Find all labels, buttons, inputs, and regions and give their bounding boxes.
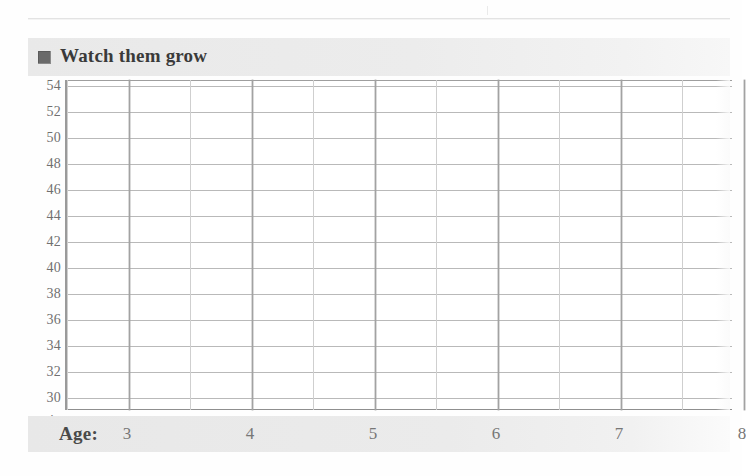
grid-line-vertical-major <box>498 80 499 410</box>
grid-line-vertical-major <box>129 80 130 410</box>
grid-line-vertical-minor <box>313 80 314 410</box>
grid-line-horizontal <box>67 409 732 410</box>
y-tick-label: 40 <box>46 260 61 276</box>
x-tick-label: 5 <box>369 424 378 444</box>
grid-line-horizontal <box>67 242 732 243</box>
grid-line-horizontal <box>67 138 732 139</box>
x-axis-title: Age: <box>59 423 98 445</box>
grid-line-horizontal <box>67 164 732 165</box>
x-tick-label: 7 <box>615 424 624 444</box>
grid-line-vertical-minor <box>190 80 191 410</box>
y-tick-label: 36 <box>46 312 61 328</box>
plot-area: 54 52 50 48 46 44 42 40 38 36 34 32 30 i… <box>28 76 730 416</box>
grid-line-horizontal <box>67 346 732 347</box>
square-bullet-icon <box>38 51 51 64</box>
grid-line-horizontal <box>67 86 732 87</box>
grid-line-horizontal <box>67 398 732 399</box>
grid-line-vertical-major <box>252 80 253 410</box>
x-tick-label: 3 <box>123 424 132 444</box>
y-tick-label: 32 <box>46 364 61 380</box>
grid-line-horizontal <box>67 112 732 113</box>
grid-line-horizontal <box>67 190 732 191</box>
y-tick-label: 30 <box>46 390 61 406</box>
grid-line-horizontal <box>67 294 732 295</box>
y-tick-label: 44 <box>46 208 61 224</box>
card-title: Watch them grow <box>60 45 207 67</box>
grid-line-vertical-major <box>744 80 745 410</box>
grid-line-vertical-major <box>375 80 376 410</box>
top-rule-tick-mark <box>487 6 488 15</box>
x-tick-label: 8 <box>738 424 746 444</box>
x-axis-band: Age: 3 4 5 6 7 8 <box>28 416 730 452</box>
grid-line-vertical-minor <box>67 80 68 410</box>
y-tick-label: 46 <box>46 182 61 198</box>
grid-line-horizontal <box>67 268 732 269</box>
grid-line-vertical-major <box>621 80 622 410</box>
grid-line-horizontal <box>67 80 732 81</box>
y-tick-label: 42 <box>46 234 61 250</box>
y-tick-label: 48 <box>46 156 61 172</box>
grid-line-vertical-minor <box>436 80 437 410</box>
grid-line-vertical-minor <box>682 80 683 410</box>
grid-line-vertical-minor <box>559 80 560 410</box>
card-header-bar: Watch them grow <box>28 38 730 76</box>
y-axis-tick-labels: 54 52 50 48 46 44 42 40 38 36 34 32 30 i… <box>28 76 65 416</box>
y-tick-label: 52 <box>46 104 61 120</box>
y-tick-label: 50 <box>46 130 61 146</box>
y-tick-label: 54 <box>46 78 61 94</box>
y-tick-label: 34 <box>46 338 61 354</box>
grid-line-horizontal <box>67 372 732 373</box>
x-tick-label: 4 <box>246 424 255 444</box>
grid-line-horizontal <box>67 320 732 321</box>
top-divider-rule <box>28 18 730 20</box>
y-tick-label: 38 <box>46 286 61 302</box>
chart-grid <box>65 80 730 410</box>
growth-chart-card: Watch them grow 54 52 50 48 46 44 42 40 … <box>28 38 730 452</box>
x-tick-label: 6 <box>492 424 501 444</box>
card-header-content: Watch them grow <box>38 38 207 76</box>
grid-line-horizontal <box>67 216 732 217</box>
